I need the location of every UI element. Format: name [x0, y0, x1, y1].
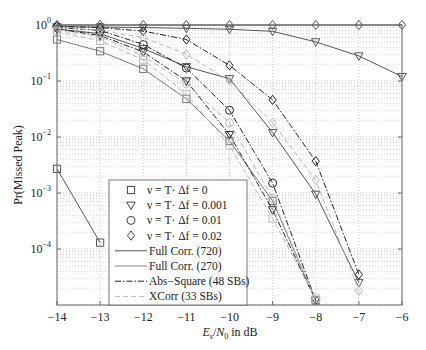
y-tick-label: 10−3 — [30, 184, 51, 200]
x-tick-label: −12 — [134, 310, 153, 324]
legend-entry-label: XCorr (33 SBs) — [149, 290, 222, 303]
x-tick-label: −10 — [220, 310, 239, 324]
triangle-down-marker-icon — [355, 53, 363, 61]
x-axis-label: Es/N0 in dB — [201, 325, 257, 341]
circle-marker-icon — [269, 179, 277, 187]
y-tick-label: 10−1 — [30, 72, 51, 88]
x-tick-label: −8 — [309, 310, 322, 324]
legend-entry-label: Abs−Square (48 SBs) — [149, 275, 250, 288]
legend-entry-label: Full Corr. (720) — [149, 245, 222, 258]
legend-entry-label: ν = T· Δf = 0 — [147, 184, 208, 196]
y-tick-label: 10−4 — [30, 240, 51, 256]
legend-entry-label: ν = T· Δf = 0.001 — [147, 199, 228, 211]
legend-entry-label: Full Corr. (270) — [149, 260, 222, 273]
x-tick-label: −7 — [352, 310, 365, 324]
y-tick-label: 100 — [35, 16, 51, 32]
x-tick-label: −11 — [177, 310, 195, 324]
y-axis-label: Pr(Missed Peak) — [11, 125, 25, 205]
chart: −14−13−12−11−10−9−8−7−6 10010−110−210−31… — [0, 0, 426, 350]
legend-entry-label: ν = T· Δf = 0.01 — [147, 214, 222, 226]
legend: ν = T· Δf = 0ν = T· Δf = 0.001ν = T· Δf … — [109, 180, 250, 305]
x-tick-label: −13 — [91, 310, 110, 324]
legend-entry-label: ν = T· Δf = 0.02 — [147, 230, 222, 242]
x-tick-label: −9 — [266, 310, 279, 324]
y-tick-label: 10−2 — [30, 128, 51, 144]
x-tick-label: −6 — [396, 310, 409, 324]
x-tick-label: −14 — [48, 310, 67, 324]
